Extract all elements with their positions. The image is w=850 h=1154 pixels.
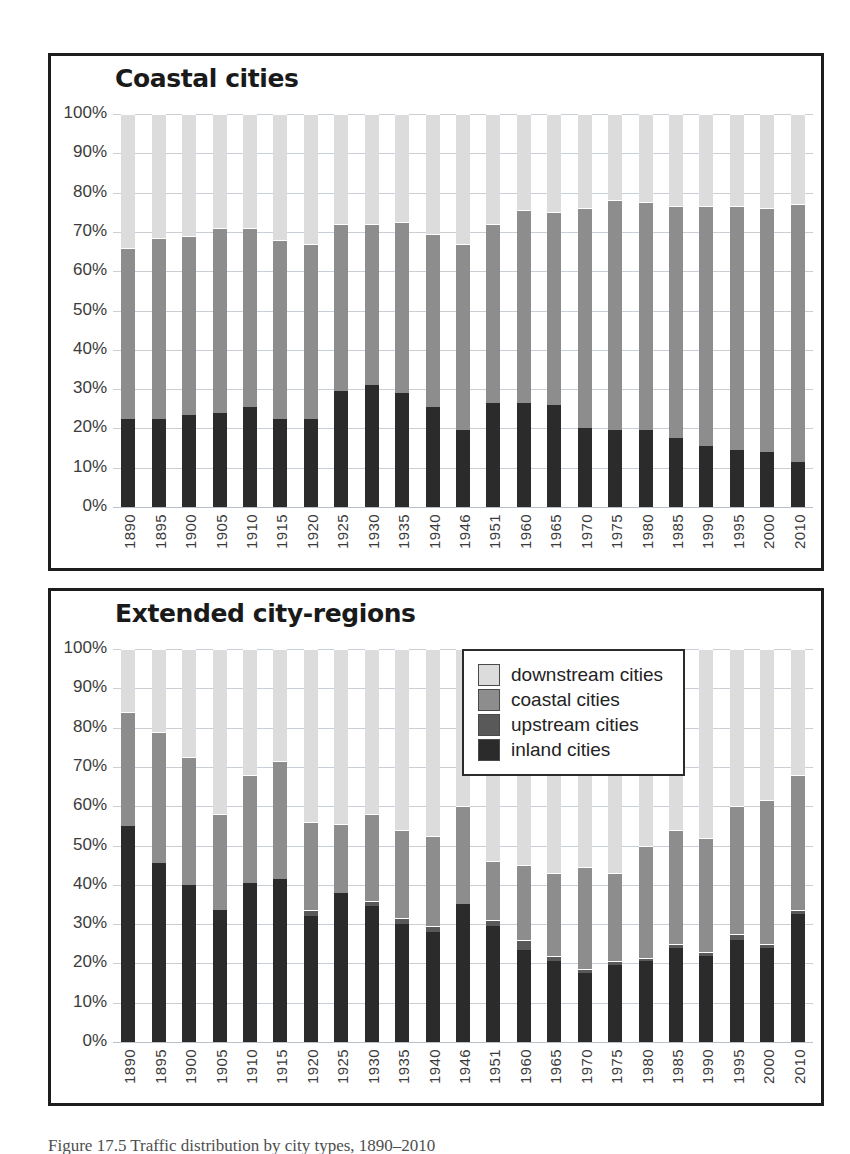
x-axis-tick-label: 1985 xyxy=(669,1049,683,1084)
bar-segment-inland xyxy=(152,863,166,1042)
x-axis-tick-label: 1946 xyxy=(456,1049,470,1084)
bar-segment-coastal xyxy=(273,240,287,419)
bar-stack xyxy=(456,114,470,507)
bar-segment-inland xyxy=(182,415,196,507)
bar-segment-coastal xyxy=(669,206,683,438)
bar-segment-inland xyxy=(395,393,409,507)
legend-item-inland: inland cities xyxy=(478,739,663,761)
x-axis-tick-label: 1995 xyxy=(730,1049,744,1084)
bar-segment-coastal xyxy=(578,208,592,428)
chart-title-extended-city-regions: Extended city-regions xyxy=(115,599,416,628)
x-axis-tick-label: 1935 xyxy=(395,1049,409,1084)
chart-panel-coastal-cities: Coastal cities 100%90%80%70%60%50%40%30%… xyxy=(48,53,824,571)
bar-segment-inland xyxy=(182,885,196,1042)
figure-root: Coastal cities 100%90%80%70%60%50%40%30%… xyxy=(0,0,850,1154)
bar-segment-inland xyxy=(699,446,713,507)
bar-stack xyxy=(760,649,774,1042)
bar-segment-inland xyxy=(760,452,774,507)
x-axis-tick-label: 1915 xyxy=(273,514,287,549)
bar-segment-inland xyxy=(334,893,348,1042)
bar-stack xyxy=(669,114,683,507)
bar-stack xyxy=(426,649,440,1042)
bar-segment-inland xyxy=(334,391,348,507)
x-axis-tick-label: 1970 xyxy=(578,1049,592,1084)
bar-segment-inland xyxy=(608,430,622,507)
bar-segment-coastal xyxy=(486,224,500,403)
bar-segment-downstream xyxy=(730,114,744,206)
bar-segment-downstream xyxy=(669,114,683,206)
bar-segment-downstream xyxy=(395,649,409,830)
bar-segment-upstream xyxy=(517,940,531,950)
x-axis-tick-label: 1960 xyxy=(517,1049,531,1084)
x-axis-tick-label: 1951 xyxy=(486,514,500,549)
bar-stack xyxy=(213,114,227,507)
x-axis-tick-label: 1980 xyxy=(639,1049,653,1084)
y-axis-tick-label: 70% xyxy=(45,221,107,241)
bar-stack xyxy=(182,649,196,1042)
x-axis-tick-label: 1960 xyxy=(517,514,531,549)
bar-segment-coastal xyxy=(182,236,196,415)
y-axis-tick-label: 80% xyxy=(45,182,107,202)
bar-segment-downstream xyxy=(213,649,227,814)
x-axis-tick-label: 1920 xyxy=(304,1049,318,1084)
bar-stack xyxy=(273,649,287,1042)
x-axis-tick-label: 1920 xyxy=(304,514,318,549)
bar-segment-inland xyxy=(791,914,805,1042)
x-axis-tick-label: 1940 xyxy=(426,514,440,549)
bar-segment-downstream xyxy=(273,114,287,240)
x-axis-tick-label: 1900 xyxy=(182,514,196,549)
bar-stack xyxy=(152,649,166,1042)
x-axis-tick-label: 1975 xyxy=(608,1049,622,1084)
x-axis-tick-label: 1985 xyxy=(669,514,683,549)
bar-segment-inland xyxy=(730,940,744,1042)
x-axis-tick-label: 1946 xyxy=(456,514,470,549)
bar-segment-downstream xyxy=(365,649,379,814)
y-axis-tick-label: 30% xyxy=(45,913,107,933)
bar-segment-inland xyxy=(426,932,440,1042)
bar-segment-coastal xyxy=(791,775,805,911)
bar-segment-coastal xyxy=(121,712,135,826)
bar-segment-coastal xyxy=(243,775,257,883)
legend-swatch-inland xyxy=(478,739,500,761)
bar-stack xyxy=(334,649,348,1042)
bar-stack xyxy=(182,114,196,507)
y-axis-tick-label: 90% xyxy=(45,142,107,162)
bar-segment-downstream xyxy=(791,649,805,775)
bar-segment-downstream xyxy=(121,649,135,712)
bar-segment-coastal xyxy=(639,202,653,430)
bar-segment-downstream xyxy=(547,114,561,212)
x-axis-tick-label: 1980 xyxy=(639,514,653,549)
bar-stack xyxy=(243,649,257,1042)
bar-segment-coastal xyxy=(273,761,287,879)
bar-segment-inland xyxy=(304,419,318,507)
x-axis-tick-label: 1925 xyxy=(334,514,348,549)
bar-segment-coastal xyxy=(243,228,257,407)
bar-segment-coastal xyxy=(365,814,379,900)
bar-segment-coastal xyxy=(517,210,531,403)
bar-stack xyxy=(304,649,318,1042)
bar-segment-inland xyxy=(486,403,500,507)
x-axis-tick-label: 1910 xyxy=(243,514,257,549)
x-axis-tick-label: 1910 xyxy=(243,1049,257,1084)
bar-segment-coastal xyxy=(760,208,774,452)
bar-stack xyxy=(334,114,348,507)
bar-segment-downstream xyxy=(365,114,379,224)
y-axis-tick-label: 0% xyxy=(45,1031,107,1051)
y-axis-tick-label: 60% xyxy=(45,260,107,280)
x-axis-tick-label: 1890 xyxy=(121,1049,135,1084)
bar-segment-coastal xyxy=(669,830,683,944)
gridline xyxy=(113,1042,813,1043)
bar-stack xyxy=(578,114,592,507)
bar-stack xyxy=(121,114,135,507)
bar-segment-coastal xyxy=(791,204,805,461)
bar-segment-downstream xyxy=(426,114,440,234)
bar-segment-coastal xyxy=(486,861,500,920)
x-axis-tick-label: 2010 xyxy=(791,1049,805,1084)
x-axis-tick-label: 1905 xyxy=(213,1049,227,1084)
bar-segment-downstream xyxy=(243,649,257,775)
bar-segment-downstream xyxy=(699,649,713,838)
bar-segment-coastal xyxy=(395,222,409,393)
chart-panel-extended-city-regions: Extended city-regions 100%90%80%70%60%50… xyxy=(48,588,824,1106)
x-axis-tick-label: 1905 xyxy=(213,514,227,549)
x-axis-tick-label: 1890 xyxy=(121,514,135,549)
